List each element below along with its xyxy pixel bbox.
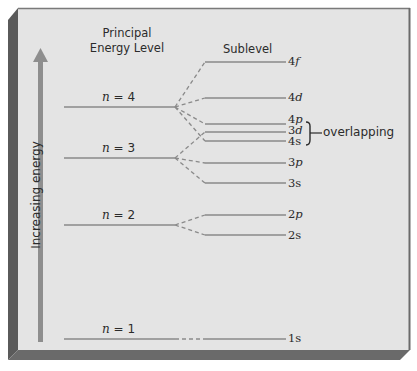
n-symbol: n [102, 208, 110, 222]
overlapping-annotation: overlapping [323, 125, 394, 139]
sublevel-label-2s: 2s [288, 228, 301, 242]
sublevel-letter: s [295, 176, 301, 190]
sublevel-header: Sublevel [223, 42, 272, 57]
sublevel-label-4f: 4f [288, 54, 300, 68]
sublevel-letter: d [295, 90, 302, 104]
sublevel-label-3s: 3s [288, 176, 301, 190]
principal-label-n1: n = 1 [102, 322, 135, 336]
sublevel-label-4s: 4s [288, 134, 301, 148]
principal-label-n2: n = 2 [102, 208, 135, 222]
sublevel-label-1s: 1s [288, 331, 301, 345]
principal-value: = 1 [114, 322, 136, 336]
n-symbol: n [102, 141, 110, 155]
frame-left-bevel [8, 8, 18, 360]
principal-label-n3: n = 3 [102, 141, 135, 155]
energy-level-diagram: Principal Energy Level Sublevel Increasi… [0, 0, 417, 371]
principal-header-line1: Principal [72, 26, 182, 41]
principal-value: = 4 [114, 90, 136, 104]
sublevel-letter: s [295, 228, 301, 242]
n-symbol: n [102, 90, 110, 104]
sublevel-label-3p: 3p [288, 155, 303, 169]
principal-value: = 3 [114, 141, 136, 155]
axis-label-increasing-energy: Increasing energy [29, 140, 43, 250]
panel [18, 8, 410, 350]
principal-header-line2: Energy Level [72, 41, 182, 56]
sublevel-letter: s [295, 134, 301, 148]
principal-level-header: Principal Energy Level [72, 26, 182, 56]
principal-value: = 2 [114, 208, 136, 222]
sublevel-letter: p [295, 155, 302, 169]
sublevel-letter: s [295, 331, 301, 345]
frame-bottom-bevel [8, 350, 410, 360]
principal-label-n4: n = 4 [102, 90, 135, 104]
sublevel-label-4d: 4d [288, 90, 303, 104]
sublevel-label-2p: 2p [288, 207, 303, 221]
sublevel-letter: f [295, 54, 299, 68]
sublevel-letter: p [295, 207, 302, 221]
n-symbol: n [102, 322, 110, 336]
